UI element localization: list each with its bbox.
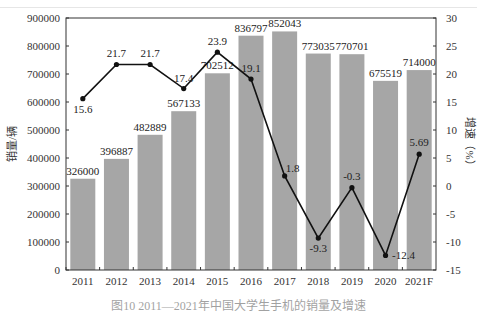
line-point-2019 bbox=[349, 185, 354, 190]
x-tick-label: 2021F bbox=[405, 275, 433, 287]
line-label: 21.7 bbox=[140, 47, 160, 59]
right-tick-label: 0 bbox=[446, 180, 452, 192]
x-tick-label: 2017 bbox=[274, 275, 297, 287]
x-tick-label: 2011 bbox=[72, 275, 94, 287]
right-tick-label: 20 bbox=[446, 68, 458, 80]
right-tick-label: 5 bbox=[446, 152, 452, 164]
left-axis-title: 销量/辆 bbox=[5, 126, 18, 162]
bar-label: 482889 bbox=[134, 121, 168, 133]
left-tick-label: 0 bbox=[55, 264, 61, 276]
line-point-2021F bbox=[417, 152, 422, 157]
x-tick-label: 2018 bbox=[307, 275, 330, 287]
bar-label: 396887 bbox=[100, 145, 134, 157]
right-tick-label: 10 bbox=[446, 124, 458, 136]
right-tick-label: -15 bbox=[446, 264, 461, 276]
left-tick-label: 700000 bbox=[27, 68, 61, 80]
bar-label: 567133 bbox=[167, 97, 201, 109]
left-tick-label: 200000 bbox=[27, 208, 61, 220]
line-point-2018 bbox=[316, 235, 321, 240]
line-point-2017 bbox=[282, 173, 287, 178]
right-tick-label: -10 bbox=[446, 236, 461, 248]
line-label: 1.8 bbox=[286, 162, 300, 174]
left-tick-label: 100000 bbox=[27, 236, 61, 248]
bar-2013 bbox=[138, 135, 163, 270]
bar-2012 bbox=[104, 159, 129, 270]
bar-label: 852043 bbox=[268, 17, 302, 29]
left-tick-label: 900000 bbox=[27, 12, 61, 24]
line-point-2011 bbox=[80, 96, 85, 101]
bar-label: 773035 bbox=[302, 40, 336, 52]
line-point-2013 bbox=[147, 62, 152, 67]
line-label: 5.69 bbox=[410, 136, 430, 148]
x-tick-label: 2013 bbox=[139, 275, 162, 287]
left-tick-label: 600000 bbox=[27, 96, 61, 108]
bar-label: 326000 bbox=[66, 165, 100, 177]
left-tick-label: 500000 bbox=[27, 124, 61, 136]
bar-2014 bbox=[171, 111, 196, 270]
line-label: -0.3 bbox=[343, 170, 361, 182]
bar-2019 bbox=[339, 54, 364, 270]
bar-2011 bbox=[70, 179, 95, 270]
right-tick-label: 15 bbox=[446, 96, 458, 108]
left-axis-ticks: 0100000200000300000400000500000600000700… bbox=[27, 12, 69, 276]
x-tick-label: 2015 bbox=[206, 275, 229, 287]
line-point-2020 bbox=[383, 253, 388, 258]
line-point-2016 bbox=[248, 76, 253, 81]
left-tick-label: 800000 bbox=[27, 40, 61, 52]
bar-label: 714000 bbox=[403, 56, 437, 68]
right-axis-title: 增速（%） bbox=[464, 117, 477, 170]
bar-label: 770701 bbox=[335, 40, 368, 52]
x-tick-label: 2014 bbox=[173, 275, 196, 287]
x-tick-label: 2012 bbox=[105, 275, 127, 287]
right-tick-label: 30 bbox=[446, 12, 458, 24]
line-point-2014 bbox=[181, 86, 186, 91]
bar-2020 bbox=[373, 81, 398, 270]
figure-caption: 图10 2011—2021年中国大学生手机的销量及增速 bbox=[0, 296, 477, 314]
line-label: 15.6 bbox=[73, 103, 93, 115]
line-label: 17.4 bbox=[174, 72, 194, 84]
line-point-2015 bbox=[215, 50, 220, 55]
right-tick-label: -5 bbox=[446, 208, 456, 220]
line-point-2012 bbox=[114, 62, 119, 67]
left-tick-label: 400000 bbox=[27, 152, 61, 164]
left-tick-label: 300000 bbox=[27, 180, 61, 192]
x-tick-label: 2019 bbox=[341, 275, 364, 287]
bar-2021F bbox=[407, 70, 432, 270]
line-label: -12.4 bbox=[392, 249, 415, 261]
bar-2015 bbox=[205, 73, 230, 270]
bar-label: 836797 bbox=[235, 22, 269, 34]
line-label: 19.1 bbox=[241, 62, 260, 74]
bar-label: 675519 bbox=[369, 67, 403, 79]
line-label: -9.3 bbox=[310, 242, 328, 254]
x-tick-label: 2016 bbox=[240, 275, 263, 287]
x-tick-label: 2020 bbox=[375, 275, 398, 287]
right-tick-label: 25 bbox=[446, 40, 458, 52]
line-label: 21.7 bbox=[107, 47, 127, 59]
line-label: 23.9 bbox=[208, 35, 228, 47]
right-axis-ticks: -15-10-5051015202530 bbox=[433, 12, 461, 276]
